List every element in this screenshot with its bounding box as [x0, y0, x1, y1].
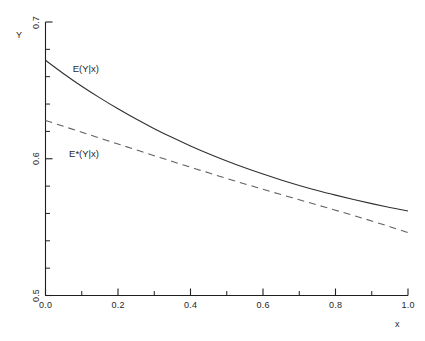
x-axis-tick-label-3: 0.6	[257, 301, 270, 310]
curve-annotation-e-y-given-x: E(Y|x)	[73, 64, 99, 74]
y-axis-tick-label-1: 0.6	[32, 152, 41, 165]
x-axis-tick-label-4: 0.8	[329, 301, 342, 310]
x-axis-tick-label-2: 0.4	[184, 301, 197, 310]
x-axis-minor-ticks	[82, 291, 372, 296]
y-axis-tick-label-0: 0.7	[32, 15, 41, 28]
x-axis-tick-label-1: 0.2	[112, 301, 125, 310]
y-axis-title: Y	[16, 31, 22, 40]
plot-canvas	[0, 0, 425, 341]
curve-annotation-e-star-y-given-x: E*(Y|x)	[69, 149, 99, 159]
x-axis-tick-label-0: 0.0	[39, 301, 52, 310]
data-curve-e-star-y-given-x	[46, 120, 409, 232]
x-axis-tick-label-5: 1.0	[402, 301, 415, 310]
data-curve-e-y-given-x	[46, 60, 409, 211]
chart-figure: 0.7 0.6 0.5 0.0 0.2 0.4 0.6 0.8 1.0 Y x …	[0, 0, 425, 341]
x-axis-title: x	[395, 320, 400, 329]
